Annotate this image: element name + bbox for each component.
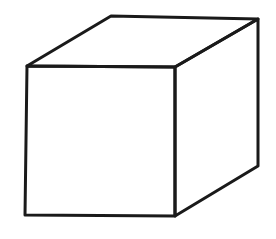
cube-top-face (27, 16, 258, 67)
cube-drawing (0, 0, 276, 239)
cube-front-face (25, 66, 175, 216)
cube-figure (0, 0, 276, 239)
cube-right-face (175, 19, 258, 216)
